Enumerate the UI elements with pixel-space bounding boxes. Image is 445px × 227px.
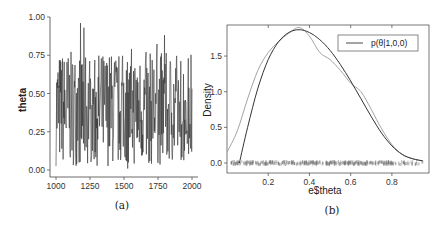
density-plot: 0.00.51.01.5 0.20.40.60.8 Density e$thet… [202,25,429,216]
caption-a: (a) [115,199,129,211]
legend: p(θ|1,0,0) [338,35,418,51]
y-tick-label: 1.5 [210,51,222,61]
y-tick-label: 0.00 [28,165,45,175]
x-tick-label: 1750 [149,181,168,191]
x-tick-label: 1000 [47,181,66,191]
figure: 0.000.250.500.751.00 1000125015001750200… [0,0,445,227]
y-tick-label: 1.00 [28,12,45,22]
y-axis-label-density: Density [202,83,213,116]
y-tick-label: 0.25 [28,127,45,137]
x-tick-label: 1500 [115,181,134,191]
x-tick-label: 2000 [183,181,202,191]
y-tick-label: 0.5 [210,122,222,132]
y-tick-label: 0.50 [28,89,45,99]
x-axis-label: e$theta [308,185,342,196]
y-tick-label: 0.0 [210,158,222,168]
x-tick-label: 0.2 [262,177,274,187]
caption-b: (b) [325,204,340,216]
y-tick-label: 0.75 [28,50,45,60]
x-tick-label: 1250 [81,181,100,191]
legend-entry: p(θ|1,0,0) [371,38,407,48]
x-tick-label: 0.8 [386,177,398,187]
x-tick-label: 0.6 [345,177,357,187]
y-axis-label-theta: theta [17,88,28,112]
trace-plot: 0.000.250.500.751.00 1000125015001750200… [17,12,202,211]
